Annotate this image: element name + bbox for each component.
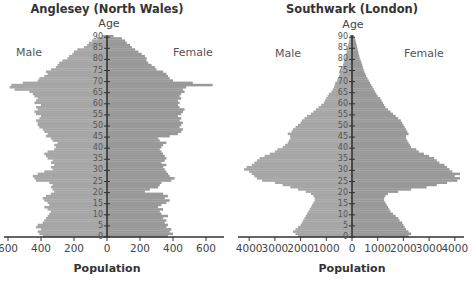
y-tick-label: 70 [328,77,348,86]
y-tick-label: 25 [328,177,348,186]
y-tick-label: 60 [328,99,348,108]
y-tick-label: 80 [328,54,348,63]
x-tick-label: 3000 [416,242,443,254]
x-tick-label: 0 [349,242,356,254]
y-tick-label: 75 [328,66,348,75]
x-axis-label: Population [319,262,386,275]
y-tick-label: 85 [328,43,348,52]
x-tick-label: 1000 [364,242,391,254]
y-tick-label: 5 [328,221,348,230]
y-tick-label: 40 [328,143,348,152]
y-tick-label: 0 [328,232,348,241]
y-tick-label: 55 [328,110,348,119]
y-tick-label: 15 [328,199,348,208]
y-tick-label: 30 [328,165,348,174]
x-tick-label: 2000 [390,242,417,254]
y-tick-label: 90 [328,32,348,41]
x-tick-label: 4000 [441,242,468,254]
x-tick-label: 3000 [262,242,289,254]
x-tick-label: 2000 [287,242,314,254]
x-tick-label: 1000 [313,242,340,254]
pyramid-plot [0,0,476,282]
y-tick-label: 10 [328,210,348,219]
y-tick-label: 35 [328,154,348,163]
chart-southwark: Southwark (London) Age Male Female 40003… [0,0,476,282]
x-tick-label: 4000 [236,242,263,254]
y-tick-label: 50 [328,121,348,130]
y-tick-label: 65 [328,88,348,97]
y-tick-label: 45 [328,132,348,141]
y-tick-label: 20 [328,188,348,197]
